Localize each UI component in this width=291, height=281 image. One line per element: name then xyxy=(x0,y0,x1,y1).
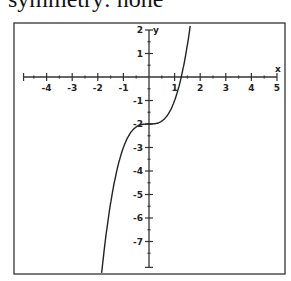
x-tick-label: -2 xyxy=(93,83,103,93)
x-tick-label: 3 xyxy=(223,83,229,93)
tick-labels: -4-3-2-11234521-1-2-3-4-5-6-7 xyxy=(42,25,281,247)
y-tick-label: -6 xyxy=(133,213,143,223)
x-tick-label: -4 xyxy=(42,83,52,93)
function-graph: -4-3-2-11234521-1-2-3-4-5-6-7 x y xyxy=(0,0,291,281)
x-axis-label: x xyxy=(275,64,281,74)
y-axis-label: y xyxy=(153,25,159,35)
y-tick-label: 2 xyxy=(137,25,143,35)
y-tick-label: -1 xyxy=(133,96,143,106)
axes xyxy=(24,30,277,267)
y-tick-label: -7 xyxy=(133,237,143,247)
x-tick-label: -3 xyxy=(67,83,77,93)
x-tick-label: 5 xyxy=(274,83,280,93)
x-tick-label: -1 xyxy=(118,83,128,93)
x-tick-label: 4 xyxy=(248,83,254,93)
y-tick-label: 1 xyxy=(137,49,143,59)
function-curve xyxy=(102,26,191,273)
y-tick-label: -3 xyxy=(133,143,143,153)
y-tick-label: -4 xyxy=(133,166,143,176)
x-tick-label: 2 xyxy=(197,83,203,93)
y-tick-label: -5 xyxy=(133,190,143,200)
